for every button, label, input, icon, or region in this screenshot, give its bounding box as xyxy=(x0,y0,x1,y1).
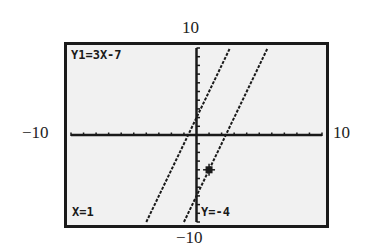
equation-label: Y1=3X-7 xyxy=(71,49,122,61)
graph-plot xyxy=(67,45,326,225)
window-ymin-label: −10 xyxy=(176,229,203,246)
calculator-screen: Y1=3X-7 X=1 Y=-4 xyxy=(64,42,329,228)
window-ymax-label: 10 xyxy=(182,19,199,36)
window-xmin-label: −10 xyxy=(22,124,49,141)
trace-x-value: X=1 xyxy=(72,206,94,218)
window-xmax-label: 10 xyxy=(333,124,350,141)
trace-y-value: Y=-4 xyxy=(201,206,230,218)
